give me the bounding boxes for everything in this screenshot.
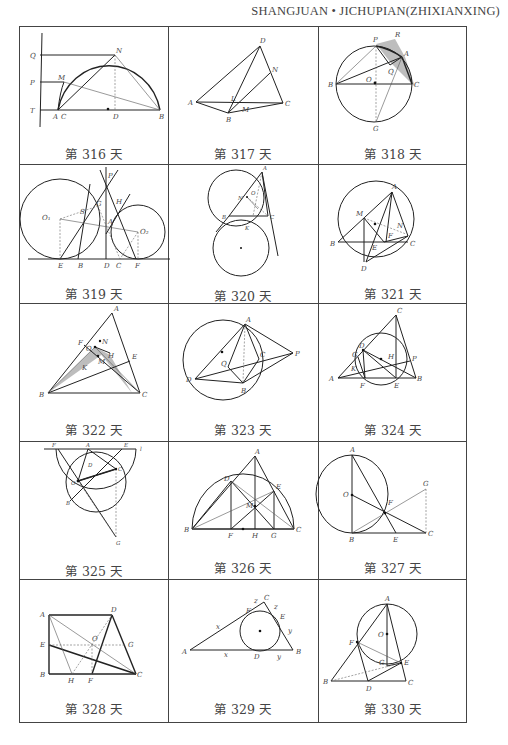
day-caption: 第 327 天 xyxy=(318,558,468,577)
svg-text:C: C xyxy=(264,594,270,602)
geometry-figure-325: FAEl DCO BG xyxy=(20,441,168,579)
svg-text:F: F xyxy=(359,382,366,390)
svg-text:M: M xyxy=(97,358,106,366)
figure-cell-317: DNA LMCB 第 317 天 xyxy=(168,27,318,164)
day-caption: 第 325 天 xyxy=(20,561,168,580)
svg-text:M: M xyxy=(355,210,364,218)
svg-text:E: E xyxy=(371,244,377,252)
svg-text:Q: Q xyxy=(30,52,36,60)
svg-text:B: B xyxy=(38,391,44,399)
svg-text:y: y xyxy=(287,627,293,635)
svg-text:C: C xyxy=(285,100,291,108)
svg-text:C: C xyxy=(116,262,122,270)
svg-text:A: A xyxy=(403,50,409,58)
svg-text:O: O xyxy=(366,76,372,84)
svg-text:K: K xyxy=(81,364,88,372)
svg-text:P: P xyxy=(411,355,417,363)
svg-text:M: M xyxy=(241,106,250,114)
svg-text:F: F xyxy=(227,532,234,540)
day-caption: 第 328 天 xyxy=(20,699,168,718)
svg-text:H: H xyxy=(67,677,75,685)
svg-text:G: G xyxy=(373,125,379,133)
day-caption: 第 322 天 xyxy=(20,420,168,439)
svg-text:D: D xyxy=(103,262,110,270)
svg-text:N: N xyxy=(271,66,279,74)
svg-text:O: O xyxy=(92,635,98,643)
day-caption: 第 321 天 xyxy=(318,284,468,303)
svg-text:B: B xyxy=(329,240,335,248)
svg-text:F: F xyxy=(77,339,84,347)
svg-text:E: E xyxy=(39,641,45,649)
figure-cell-321: AMN FBE CD 第 321 天 xyxy=(318,164,468,303)
svg-text:B: B xyxy=(221,214,226,220)
svg-text:F: F xyxy=(387,499,394,507)
day-caption: 第 323 天 xyxy=(168,420,318,439)
svg-text:B: B xyxy=(183,526,189,534)
svg-text:E: E xyxy=(403,659,409,667)
svg-text:R: R xyxy=(394,31,401,39)
day-caption: 第 316 天 xyxy=(20,144,168,163)
svg-text:D: D xyxy=(365,685,372,693)
svg-text:D: D xyxy=(253,653,260,661)
svg-text:O: O xyxy=(251,190,256,196)
svg-text:B: B xyxy=(327,81,333,89)
svg-text:C: C xyxy=(414,81,420,89)
svg-text:A: A xyxy=(245,316,251,324)
svg-text:Q: Q xyxy=(221,360,227,368)
svg-text:B: B xyxy=(322,678,328,686)
svg-text:E: E xyxy=(279,613,285,621)
svg-text:y: y xyxy=(276,653,282,661)
svg-text:D: D xyxy=(112,113,119,121)
svg-text:A: A xyxy=(328,375,334,383)
figure-cell-318: PRA QBO CG 第 318 天 xyxy=(318,27,468,164)
figure-cell-320: ANO BCK 第 320 天 xyxy=(168,164,318,303)
svg-text:C: C xyxy=(61,113,67,121)
svg-text:P: P xyxy=(294,350,300,358)
svg-text:l: l xyxy=(140,446,142,452)
svg-text:B: B xyxy=(77,262,83,270)
svg-text:E: E xyxy=(392,536,398,544)
svg-text:P: P xyxy=(29,79,35,87)
svg-text:C: C xyxy=(270,214,275,220)
svg-text:A: A xyxy=(187,99,193,107)
svg-text:C: C xyxy=(397,307,403,315)
svg-text:A: A xyxy=(52,113,58,121)
svg-text:O₂: O₂ xyxy=(140,228,149,236)
svg-text:D: D xyxy=(358,342,365,350)
geometry-figure-319: PGH O₁SA O₂EB DCF xyxy=(20,164,168,303)
svg-text:K: K xyxy=(244,225,250,231)
svg-text:B: B xyxy=(416,375,422,383)
svg-text:F: F xyxy=(348,639,355,647)
day-caption: 第 326 天 xyxy=(168,558,318,577)
svg-text:B: B xyxy=(348,536,354,544)
figure-cell-326: ADE MBF HGC 第 326 天 xyxy=(168,441,318,579)
svg-text:A: A xyxy=(254,448,260,456)
geometry-figure-321: AMN FBE CD xyxy=(318,164,468,303)
svg-text:Q: Q xyxy=(388,68,394,76)
svg-text:z: z xyxy=(273,603,278,611)
geometry-figure-320: ANO BCK xyxy=(168,164,318,303)
svg-text:P: P xyxy=(372,36,378,44)
day-caption: 第 317 天 xyxy=(168,144,318,163)
svg-text:G: G xyxy=(352,351,358,359)
figure-cell-316: QPT ACD BMN 第 316 天 xyxy=(20,27,168,164)
figure-cell-330: AOF GEB DC 第 330 天 xyxy=(318,579,468,724)
svg-text:H: H xyxy=(115,198,123,206)
svg-text:E: E xyxy=(123,442,128,448)
svg-text:G: G xyxy=(423,480,429,488)
day-caption: 第 330 天 xyxy=(318,699,468,718)
figure-cell-323: ACP QDB 第 323 天 xyxy=(168,303,318,441)
svg-text:A: A xyxy=(262,165,267,171)
svg-text:A: A xyxy=(391,183,397,191)
svg-text:D: D xyxy=(223,475,230,483)
figure-cell-322: AFN OHE MKBC 第 322 天 xyxy=(20,303,168,441)
day-caption: 第 329 天 xyxy=(168,699,318,718)
svg-text:S: S xyxy=(80,208,85,216)
day-caption: 第 319 天 xyxy=(20,284,168,303)
svg-text:F: F xyxy=(51,442,56,448)
svg-text:E: E xyxy=(131,353,137,361)
svg-text:H: H xyxy=(251,532,259,540)
svg-text:F: F xyxy=(387,232,394,240)
svg-text:M: M xyxy=(245,502,254,510)
svg-text:D: D xyxy=(110,606,117,614)
